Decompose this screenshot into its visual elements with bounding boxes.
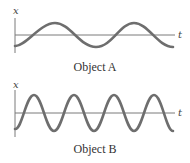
- caption-object-a: Object A: [74, 60, 117, 74]
- x-axis-label: t: [178, 107, 183, 118]
- y-axis-label: x: [13, 79, 19, 90]
- panel-object-a: x t Object A: [13, 5, 183, 74]
- panel-object-b: x t Object B: [13, 79, 183, 156]
- caption-object-b: Object B: [74, 142, 117, 156]
- oscillation-diagram: x t Object A x t Object B: [0, 0, 190, 163]
- y-axis-label: x: [13, 5, 19, 16]
- x-axis-label: t: [178, 29, 183, 40]
